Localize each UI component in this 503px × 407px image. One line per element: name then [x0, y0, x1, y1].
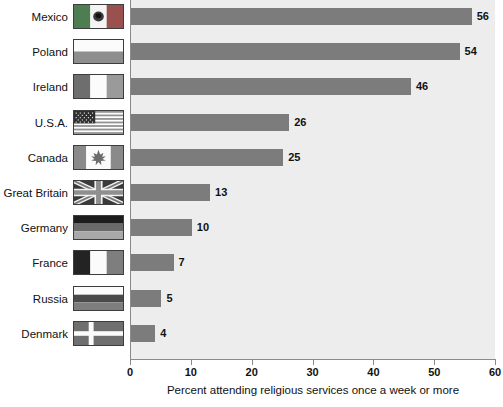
x-tick-label: 30: [298, 366, 328, 378]
x-tick: [130, 360, 131, 365]
bar-value-label: 54: [465, 43, 477, 60]
category-label: Canada: [0, 145, 68, 171]
flag-denmark-icon: [73, 321, 124, 346]
x-axis-title: Percent attending religious services onc…: [130, 384, 496, 396]
bar: [131, 43, 460, 60]
flag-france-icon: [73, 250, 124, 275]
chart-row: France 7: [0, 250, 503, 276]
chart-row: Poland 54: [0, 39, 503, 65]
bar: [131, 114, 289, 131]
bar-value-label: 4: [160, 325, 166, 342]
chart-row: Germany 10: [0, 215, 503, 241]
flag-mexico-icon: [73, 4, 124, 29]
bar: [131, 254, 174, 271]
bar-value-label: 5: [166, 290, 172, 307]
x-tick: [434, 360, 435, 365]
bar: [131, 290, 161, 307]
bar-chart: Mexico 56Poland 54Ireland 46U.S.A.: [0, 0, 503, 407]
chart-row: Great Britain 13: [0, 180, 503, 206]
bar: [131, 184, 210, 201]
x-tick-label: 50: [419, 366, 449, 378]
chart-row: Ireland 46: [0, 74, 503, 100]
bar: [131, 8, 472, 25]
x-tick: [495, 360, 496, 365]
x-tick: [313, 360, 314, 365]
bar: [131, 78, 411, 95]
bar-value-label: 13: [215, 184, 227, 201]
category-label: Russia: [0, 286, 68, 312]
flag-canada-icon: [73, 145, 124, 170]
flag-russia-icon: [73, 286, 124, 311]
category-label: Ireland: [0, 74, 68, 100]
flag-ireland-icon: [73, 74, 124, 99]
category-label: Germany: [0, 215, 68, 241]
x-tick-label: 20: [237, 366, 267, 378]
category-label: Poland: [0, 39, 68, 65]
category-label: Mexico: [0, 4, 68, 30]
x-tick-label: 0: [115, 366, 145, 378]
flag-poland-icon: [73, 39, 124, 64]
bar-value-label: 7: [179, 254, 185, 271]
category-label: U.S.A.: [0, 110, 68, 136]
bar-value-label: 10: [197, 219, 209, 236]
chart-row: U.S.A.: [0, 110, 503, 136]
bar-value-label: 46: [416, 78, 428, 95]
bar-value-label: 25: [288, 149, 300, 166]
bar: [131, 219, 192, 236]
x-tick: [252, 360, 253, 365]
category-label: Denmark: [0, 321, 68, 347]
bar-value-label: 56: [477, 8, 489, 25]
x-tick-label: 10: [176, 366, 206, 378]
flag-usa-icon: [73, 110, 124, 135]
bar-value-label: 26: [294, 114, 306, 131]
chart-row: Denmark 4: [0, 321, 503, 347]
x-tick: [191, 360, 192, 365]
bar: [131, 149, 283, 166]
chart-row: Canada 25: [0, 145, 503, 171]
flag-great-britain-icon: [73, 180, 124, 205]
flag-germany-icon: [73, 215, 124, 240]
bar: [131, 325, 155, 342]
chart-row: Mexico 56: [0, 4, 503, 30]
category-label: France: [0, 250, 68, 276]
x-tick: [373, 360, 374, 365]
x-tick-label: 60: [480, 366, 503, 378]
chart-row: Russia 5: [0, 286, 503, 312]
category-label: Great Britain: [0, 180, 68, 206]
x-tick-label: 40: [358, 366, 388, 378]
